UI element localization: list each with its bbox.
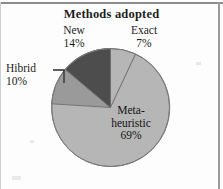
slice-label-meta-value: 69% <box>100 129 162 142</box>
page-frame-right-rule <box>218 2 220 189</box>
slice-label-exact-value: 7% <box>120 37 168 50</box>
page-frame-left-rule <box>0 2 1 189</box>
scan-speckle <box>30 140 34 143</box>
slice-label-new-name: New <box>52 24 96 37</box>
slice-label-hibrid: Hibrid 10% <box>6 62 56 87</box>
page-frame-top-rule <box>0 2 223 4</box>
scan-speckle <box>196 62 201 65</box>
slice-label-meta-name-line2: heuristic <box>100 117 162 130</box>
slice-label-meta-name-line1: Meta- <box>100 104 162 117</box>
slice-label-meta-heuristic: Meta- heuristic 69% <box>100 104 162 142</box>
scan-speckle <box>12 176 21 180</box>
slice-label-hibrid-name: Hibrid <box>6 62 56 75</box>
slice-label-exact-name: Exact <box>120 24 168 37</box>
slice-label-new-value: 14% <box>52 37 96 50</box>
slice-label-exact: Exact 7% <box>120 24 168 49</box>
pie-chart-figure: Methods adopted New 14% Exact 7% Hibrid … <box>0 0 223 189</box>
slice-label-new: New 14% <box>52 24 96 49</box>
chart-title: Methods adopted <box>0 7 223 22</box>
slice-label-hibrid-value: 10% <box>6 75 56 88</box>
